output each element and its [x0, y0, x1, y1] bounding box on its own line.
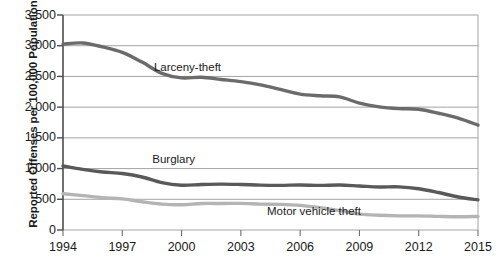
- series-label-burglary: Burglary: [152, 154, 195, 166]
- x-tick-label: 2000: [168, 241, 196, 254]
- x-axis-tick-labels: 19941997200020032006200920122015: [0, 0, 498, 266]
- crime-rate-line-chart: Reported Offenses per 100,000 Population…: [0, 0, 498, 266]
- x-tick-label: 2012: [405, 241, 433, 254]
- x-tick-label: 1994: [49, 241, 77, 254]
- series-label-larceny-theft: Larceny-theft: [154, 62, 221, 74]
- x-tick-label: 1997: [108, 241, 136, 254]
- x-tick-label: 2015: [464, 241, 492, 254]
- x-tick-label: 2009: [346, 241, 374, 254]
- series-label-motor-vehicle-theft: Motor vehicle theft: [267, 206, 361, 218]
- x-tick-label: 2003: [227, 241, 255, 254]
- x-tick-label: 2006: [286, 241, 314, 254]
